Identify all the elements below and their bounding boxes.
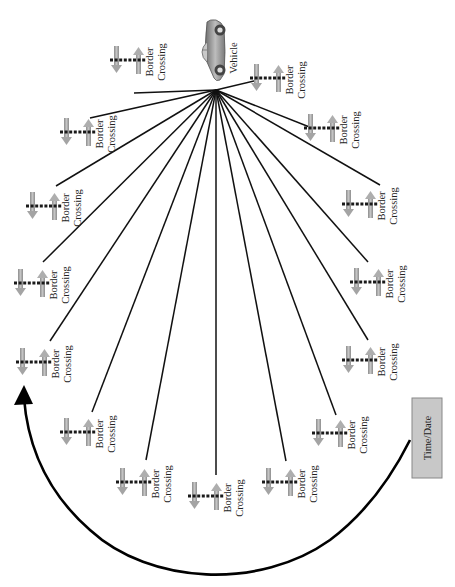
border-crossing-node: BorderCrossing	[262, 465, 319, 503]
border-label: Border	[338, 115, 349, 145]
border-crossing-icon	[60, 118, 96, 146]
crossing-label: Crossing	[72, 189, 83, 227]
border-crossing-node: BorderCrossing	[342, 343, 399, 381]
border-label: Border	[144, 47, 155, 77]
car-icon	[202, 20, 226, 81]
border-crossing-node: BorderCrossing	[188, 479, 245, 517]
crossing-label: Crossing	[308, 465, 319, 503]
border-label: Border	[94, 419, 105, 449]
border-crossing-node: BorderCrossing	[16, 345, 73, 383]
border-label: Border	[376, 347, 387, 377]
border-label: Border	[150, 469, 161, 499]
border-crossing-icon	[304, 114, 340, 142]
border-crossing-node: BorderCrossing	[110, 43, 167, 81]
border-crossing-node: BorderCrossing	[342, 187, 399, 225]
border-crossing-icon	[188, 482, 224, 510]
crossing-label: Crossing	[106, 115, 117, 153]
border-crossing-icon	[14, 269, 50, 297]
border-crossing-icon	[262, 468, 298, 496]
border-crossing-icon	[110, 46, 146, 74]
border-label: Border	[346, 420, 357, 450]
border-label: Border	[60, 193, 71, 223]
vehicle-node: Vehicle	[202, 20, 239, 81]
crossing-label: Crossing	[62, 345, 73, 383]
border-crossing-icon	[60, 418, 96, 446]
border-crossing-node: BorderCrossing	[26, 189, 83, 227]
connection-line	[90, 90, 216, 118]
connection-line	[216, 90, 286, 461]
border-crossing-node: BorderCrossing	[60, 415, 117, 453]
border-label: Border	[376, 191, 387, 221]
border-crossing-node: BorderCrossing	[60, 115, 117, 153]
vehicle-border-crossing-diagram: BorderCrossingBorderCrossingBorderCrossi…	[0, 0, 455, 587]
border-label: Border	[94, 119, 105, 149]
crossing-label: Crossing	[234, 479, 245, 517]
border-crossing-icon	[250, 64, 286, 92]
border-label: Border	[384, 269, 395, 299]
border-crossing-icon	[116, 468, 152, 496]
arrow-head-icon	[14, 385, 33, 405]
crossing-label: Crossing	[350, 111, 361, 149]
border-crossing-node: BorderCrossing	[350, 265, 407, 303]
crossing-label: Crossing	[388, 187, 399, 225]
border-crossing-icon	[312, 419, 348, 447]
border-crossing-node: BorderCrossing	[250, 61, 307, 99]
crossing-label: Crossing	[396, 265, 407, 303]
border-crossing-node: BorderCrossing	[14, 266, 71, 304]
border-label: Border	[48, 270, 59, 300]
border-crossing-node: BorderCrossing	[304, 111, 361, 149]
border-crossing-icon	[342, 190, 378, 218]
connection-line	[146, 90, 216, 460]
border-label: Border	[222, 483, 233, 513]
time-date-label: Time/Date	[422, 415, 433, 460]
time-date-box: Time/Date	[412, 398, 442, 478]
crossing-label: Crossing	[156, 43, 167, 81]
border-crossing-icon	[342, 346, 378, 374]
crossing-label: Crossing	[162, 465, 173, 503]
border-crossing-nodes: BorderCrossingBorderCrossingBorderCrossi…	[14, 43, 407, 517]
border-crossing-icon	[350, 268, 386, 296]
border-label: Border	[284, 65, 295, 95]
border-crossing-node: BorderCrossing	[312, 416, 369, 454]
crossing-label: Crossing	[388, 343, 399, 381]
connection-line	[56, 90, 216, 186]
border-label: Border	[50, 349, 61, 379]
vehicle-label: Vehicle	[228, 42, 239, 74]
border-crossing-icon	[16, 348, 52, 376]
border-label: Border	[296, 469, 307, 499]
border-crossing-icon	[26, 192, 62, 220]
connection-line	[216, 90, 336, 415]
border-crossing-node: BorderCrossing	[116, 465, 173, 503]
crossing-label: Crossing	[296, 61, 307, 99]
connection-line	[216, 80, 258, 90]
crossing-label: Crossing	[358, 416, 369, 454]
crossing-label: Crossing	[106, 415, 117, 453]
connection-line	[43, 90, 216, 262]
crossing-label: Crossing	[60, 266, 71, 304]
